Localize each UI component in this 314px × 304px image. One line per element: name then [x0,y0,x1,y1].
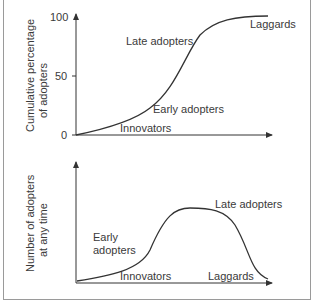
top-y-label-line2: of adopters [37,62,49,118]
bottom-y-label-line1: Number of adopters [24,174,36,272]
bottom-label-laggards: Laggards [208,270,254,282]
bottom-label-early-line2: adopters [93,244,136,256]
tick-label-100: 100 [50,11,68,23]
bottom-label-early-line1: Early [93,231,119,243]
bottom-chart: Number of adopters at any time Early ado… [24,162,283,283]
top-label-early-adopters: Early adopters [153,103,224,115]
top-y-label-line1: Cumulative percentage [24,19,36,132]
top-label-innovators: Innovators [120,122,172,134]
tick-label-50: 50 [55,70,67,82]
top-label-laggards: Laggards [250,18,296,30]
top-label-late-adopters: Late adopters [126,35,194,47]
tick-label-0: 0 [61,129,67,141]
bottom-y-label-line2: at any time [37,203,49,257]
top-chart: 100 50 0 Cumulative percentage of adopte… [24,11,296,141]
bottom-label-late-adopters: Late adopters [215,198,283,210]
cumulative-s-curve [76,16,268,135]
adoption-diagram: 100 50 0 Cumulative percentage of adopte… [0,0,314,304]
bottom-label-innovators: Innovators [120,270,172,282]
